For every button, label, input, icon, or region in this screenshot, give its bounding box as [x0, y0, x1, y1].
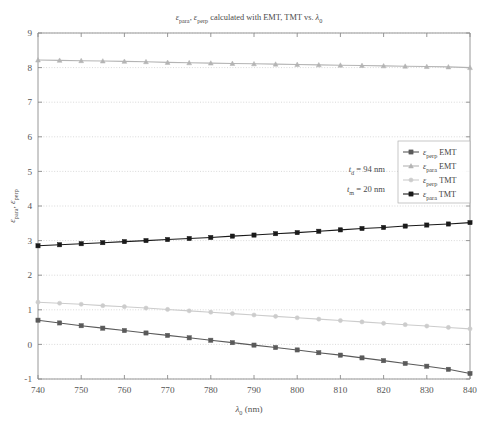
- series-marker-2-12: [295, 316, 299, 320]
- ytick-label-3: 3: [27, 236, 32, 246]
- series-marker-3-17: [403, 224, 407, 228]
- chart-title: εpara, εperp calculated with EMT, TMT vs…: [176, 13, 323, 24]
- series-marker-3-3: [101, 241, 105, 245]
- series-marker-0-18: [425, 364, 429, 368]
- ytick-label-8: 8: [27, 63, 32, 73]
- series-marker-2-10: [252, 313, 256, 317]
- series-marker-0-7: [187, 336, 191, 340]
- ytick-label-4: 4: [27, 201, 32, 211]
- series-marker-3-5: [144, 239, 148, 243]
- legend-marker-3: [409, 192, 413, 196]
- series-marker-0-11: [274, 345, 278, 349]
- xtick-label-750: 750: [74, 385, 88, 395]
- series-marker-0-12: [295, 348, 299, 352]
- xtick-label-830: 830: [420, 385, 434, 395]
- legend-marker-0: [409, 150, 413, 154]
- tm-annotation: tm = 20 nm: [347, 184, 385, 196]
- xtick-label-800: 800: [290, 385, 304, 395]
- ytick-label-2: 2: [27, 270, 32, 280]
- ytick-label-7: 7: [27, 97, 32, 107]
- xtick-label-740: 740: [31, 385, 45, 395]
- series-marker-3-7: [187, 236, 191, 240]
- series-marker-2-3: [101, 304, 105, 308]
- ytick-label-9: 9: [27, 28, 32, 38]
- epsilon-vs-lambda-chart: -101234567897407507607707807908008108208…: [0, 0, 499, 434]
- series-marker-0-6: [166, 333, 170, 337]
- legend: εperp EMTεpara EMTεperp TMTεpara TMT: [398, 141, 470, 203]
- xtick-label-840: 840: [463, 385, 477, 395]
- ytick-label-0: 0: [27, 340, 32, 350]
- series-marker-0-2: [79, 324, 83, 328]
- series-marker-3-9: [230, 234, 234, 238]
- series-marker-3-8: [209, 235, 213, 239]
- xtick-label-780: 780: [204, 385, 218, 395]
- series-marker-3-12: [295, 231, 299, 235]
- series-marker-3-20: [468, 221, 472, 225]
- tick-marks: -101234567897407507607707807908008108208…: [24, 28, 477, 395]
- xtick-label-770: 770: [161, 385, 175, 395]
- legend-marker-2: [409, 178, 413, 182]
- series-marker-0-13: [317, 351, 321, 355]
- chart-container: -101234567897407507607707807908008108208…: [0, 0, 499, 434]
- series-marker-2-18: [425, 324, 429, 328]
- xtick-label-810: 810: [334, 385, 348, 395]
- series-marker-2-15: [360, 320, 364, 324]
- td-annotation: td = 94 nm: [349, 164, 386, 176]
- series-marker-3-1: [58, 243, 62, 247]
- series-marker-2-19: [446, 325, 450, 329]
- series-0: [36, 318, 472, 375]
- series-marker-3-10: [252, 233, 256, 237]
- series-marker-2-7: [187, 309, 191, 313]
- xtick-label-790: 790: [247, 385, 261, 395]
- series-marker-2-14: [338, 318, 342, 322]
- series-marker-0-9: [230, 341, 234, 345]
- series-marker-2-1: [58, 301, 62, 305]
- series-marker-2-5: [144, 306, 148, 310]
- series-marker-0-14: [338, 353, 342, 357]
- series-marker-3-11: [274, 232, 278, 236]
- series-marker-2-16: [382, 321, 386, 325]
- series-marker-2-17: [403, 323, 407, 327]
- series-marker-0-0: [36, 318, 40, 322]
- xtick-label-820: 820: [377, 385, 391, 395]
- series-marker-2-13: [317, 317, 321, 321]
- series-marker-0-4: [122, 328, 126, 332]
- ytick-label-5: 5: [27, 167, 32, 177]
- series-marker-2-11: [274, 314, 278, 318]
- y-axis-label: εpara, εperp: [7, 189, 19, 223]
- series-marker-0-15: [360, 356, 364, 360]
- series-3: [36, 221, 472, 248]
- series-marker-3-19: [446, 222, 450, 226]
- series-marker-2-20: [468, 327, 472, 331]
- series-marker-3-2: [79, 242, 83, 246]
- series-marker-3-4: [122, 240, 126, 244]
- series-marker-0-20: [468, 371, 472, 375]
- series-marker-0-1: [58, 321, 62, 325]
- series-marker-3-18: [425, 223, 429, 227]
- series-marker-2-4: [122, 305, 126, 309]
- series-marker-0-3: [101, 326, 105, 330]
- ytick-label--1: -1: [24, 374, 32, 384]
- series-marker-2-8: [209, 310, 213, 314]
- series-marker-0-10: [252, 343, 256, 347]
- series-marker-0-5: [144, 331, 148, 335]
- ytick-label-1: 1: [27, 305, 32, 315]
- series-marker-0-8: [209, 338, 213, 342]
- series-marker-3-6: [166, 237, 170, 241]
- ytick-label-6: 6: [27, 132, 32, 142]
- series-marker-0-19: [446, 367, 450, 371]
- series-marker-3-15: [360, 226, 364, 230]
- series-marker-3-13: [317, 229, 321, 233]
- series-marker-2-9: [230, 312, 234, 316]
- series-marker-2-2: [79, 302, 83, 306]
- series-marker-2-0: [36, 300, 40, 304]
- xtick-label-760: 760: [118, 385, 132, 395]
- series-marker-2-6: [166, 307, 170, 311]
- y-axis-label-group: εpara, εperp: [7, 189, 19, 223]
- x-axis-label: λ0 (nm): [234, 404, 262, 416]
- series-marker-3-0: [36, 244, 40, 248]
- series-marker-0-17: [403, 361, 407, 365]
- data-series-group: [36, 58, 473, 376]
- series-marker-0-16: [382, 359, 386, 363]
- series-marker-3-14: [338, 228, 342, 232]
